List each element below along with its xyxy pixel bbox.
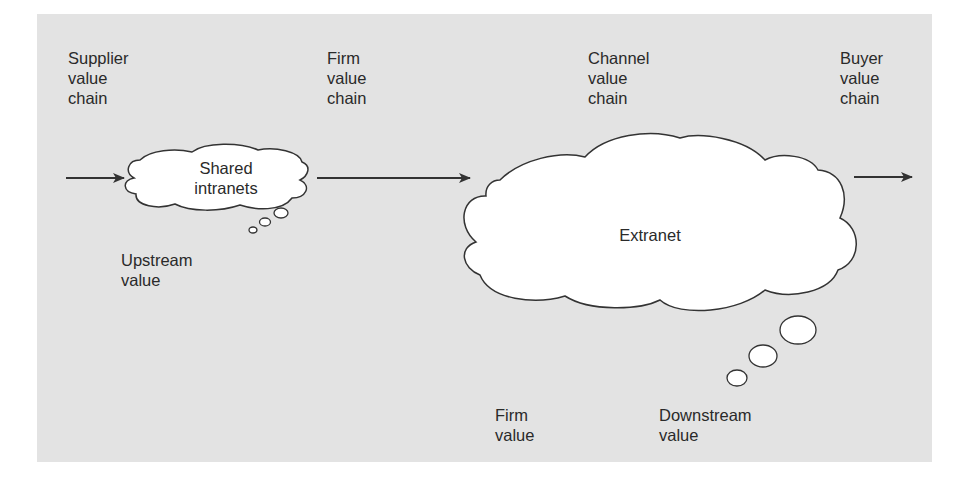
- label-buyer-value-chain: Buyer value chain: [840, 48, 883, 108]
- label-extranet: Extranet: [600, 225, 700, 245]
- extranet-cloud-icon: [464, 134, 856, 386]
- diagram-canvas: Supplier value chain Firm value chain Ch…: [0, 0, 973, 482]
- diagram-graphics: [0, 0, 973, 482]
- label-upstream-value: Upstream value: [121, 250, 193, 290]
- label-shared-intranets: Shared intranets: [176, 158, 276, 198]
- label-downstream-value: Downstream value: [659, 405, 752, 445]
- label-channel-value-chain: Channel value chain: [588, 48, 649, 108]
- label-firm-value-chain: Firm value chain: [327, 48, 366, 108]
- label-supplier-value-chain: Supplier value chain: [68, 48, 129, 108]
- label-firm-value: Firm value: [495, 405, 534, 445]
